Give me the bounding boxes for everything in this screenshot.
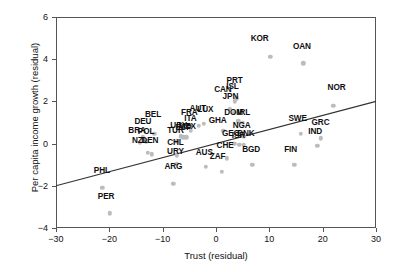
data-point-label: DEN — [141, 138, 158, 147]
data-points-layer: KOROANNORPRTISLCANJPNAUTLUXDOMIRLFRABELI… — [56, 17, 376, 228]
x-tick — [376, 228, 377, 232]
x-tick — [163, 228, 164, 232]
data-point-label: TUR — [167, 128, 184, 137]
data-point-label: OAN — [293, 43, 311, 52]
data-point-label: ARG — [164, 163, 182, 172]
scatter-plot-figure: −30−20−100102030 −4−20246 KOROANNORPRTIS… — [0, 0, 394, 272]
data-point-label: KOR — [251, 36, 269, 45]
x-tick-label: 0 — [196, 234, 236, 244]
x-tick — [56, 228, 57, 232]
data-point-label: BGD — [242, 147, 260, 156]
x-tick — [323, 228, 324, 232]
data-point-label: IND — [308, 129, 322, 138]
y-tick — [52, 228, 56, 229]
data-point-label: GRC — [312, 119, 330, 128]
x-tick-label: 30 — [356, 234, 394, 244]
x-tick-label: 20 — [303, 234, 343, 244]
data-point-label: URY — [167, 148, 184, 157]
data-point-label: PHL — [94, 168, 110, 177]
x-tick-label: −20 — [89, 234, 129, 244]
x-tick-label: 10 — [249, 234, 289, 244]
data-point-label: LUX — [197, 107, 213, 116]
data-point-label: CHE — [217, 142, 234, 151]
x-tick — [216, 228, 217, 232]
data-point-label: GHA — [209, 117, 227, 126]
data-point-label: SWE — [288, 115, 306, 124]
data-point-label: JPN — [223, 94, 239, 103]
y-axis-label: Per capita income growth (residual) — [29, 8, 40, 228]
x-tick — [269, 228, 270, 232]
data-point-label: ZAF — [210, 153, 226, 162]
x-axis-label: Trust (residual) — [56, 250, 376, 261]
x-tick-label: −10 — [143, 234, 183, 244]
data-point-label: DEU — [134, 118, 151, 127]
x-tick-label: −30 — [36, 234, 76, 244]
data-point-label: NOR — [328, 84, 346, 93]
data-point-label: FIN — [284, 147, 297, 156]
x-tick — [109, 228, 110, 232]
data-point-label: IRL — [237, 110, 250, 119]
data-point-label: PER — [98, 193, 115, 202]
data-point-label: ISR — [232, 133, 245, 142]
